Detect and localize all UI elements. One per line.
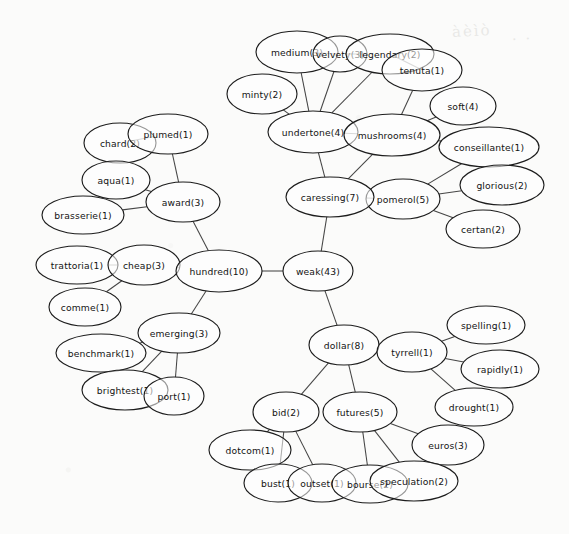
- graph-edge: [283, 110, 289, 114]
- graph-edge: [318, 153, 324, 177]
- graph-node-weak[interactable]: weak(43): [283, 251, 353, 291]
- graph-node-spelling[interactable]: spelling(1): [447, 306, 525, 344]
- graph-edge: [172, 154, 178, 182]
- graph-edge: [374, 430, 399, 462]
- graph-node-tyrrell[interactable]: tyrrell(1): [377, 332, 447, 372]
- node-label: undertone(4): [282, 127, 344, 138]
- graph-node-euros[interactable]: euros(3): [412, 425, 484, 465]
- graph-node-certan[interactable]: certan(2): [446, 210, 520, 248]
- graph-edge: [433, 210, 453, 217]
- graph-node-brasserie[interactable]: brasserie(1): [42, 196, 124, 234]
- node-label: minty(2): [242, 89, 283, 100]
- graph-node-aqua[interactable]: aqua(1): [82, 161, 150, 199]
- graph-node-plumed[interactable]: plumed(1): [128, 114, 208, 154]
- graph-edge: [402, 90, 413, 114]
- node-label: brasserie(1): [54, 210, 111, 221]
- graph-node-caressing[interactable]: caressing(7): [286, 177, 374, 217]
- node-label: euros(3): [428, 440, 468, 451]
- node-label: emerging(3): [150, 328, 209, 339]
- node-label: cheap(3): [123, 260, 165, 271]
- graph-edge: [363, 432, 368, 465]
- graph-edge: [431, 369, 455, 391]
- node-label: mushrooms(4): [358, 130, 427, 141]
- node-label: futures(5): [336, 407, 383, 418]
- graph-node-award[interactable]: award(3): [146, 182, 220, 222]
- graph-node-benchmark[interactable]: benchmark(1): [56, 334, 146, 372]
- node-label: award(3): [162, 197, 204, 208]
- graph-node-futures[interactable]: futures(5): [323, 392, 397, 432]
- node-label: rapidly(1): [477, 364, 523, 375]
- node-label: plumed(1): [143, 129, 192, 140]
- graph-node-soft[interactable]: soft(4): [430, 87, 496, 125]
- graph-node-cheap[interactable]: cheap(3): [108, 245, 180, 285]
- graph-edge: [325, 291, 337, 326]
- graph-edge: [349, 365, 356, 392]
- graph-node-tenuta[interactable]: tenuta(1): [382, 49, 462, 91]
- node-label: spelling(1): [461, 320, 511, 331]
- graph-node-pomerol[interactable]: pomerol(5): [366, 179, 440, 219]
- graph-node-dollar[interactable]: dollar(8): [309, 325, 379, 365]
- node-label: bid(2): [272, 407, 300, 418]
- graph-edge: [427, 117, 436, 121]
- node-label: weak(43): [296, 266, 340, 277]
- graph-edge: [439, 191, 462, 194]
- graph-edge: [122, 207, 147, 210]
- node-label: soft(4): [447, 101, 478, 112]
- graph-edge: [321, 217, 327, 251]
- graph-node-port[interactable]: port(1): [144, 377, 204, 415]
- node-layer: medium(3)velvety(3)legendary(2)tenuta(1)…: [36, 31, 544, 503]
- graph-edge: [301, 363, 328, 394]
- node-label: certan(2): [461, 224, 505, 235]
- node-label: dollar(8): [324, 340, 364, 351]
- graph-edge: [348, 154, 373, 179]
- graph-node-hundred[interactable]: hundred(10): [176, 250, 262, 292]
- graph-svg: medium(3)velvety(3)legendary(2)tenuta(1)…: [0, 0, 569, 534]
- graph-edge: [445, 358, 464, 362]
- graph-edge: [106, 281, 121, 292]
- node-label: pomerol(5): [377, 194, 429, 205]
- graph-edge: [176, 353, 178, 377]
- node-label: aqua(1): [98, 175, 135, 186]
- node-label: glorious(2): [476, 180, 527, 191]
- node-label: benchmark(1): [68, 348, 135, 359]
- graph-node-mushrooms[interactable]: mushrooms(4): [344, 114, 440, 156]
- graph-edge: [332, 72, 372, 113]
- graph-node-glorious[interactable]: glorious(2): [460, 165, 544, 205]
- node-label: tenuta(1): [400, 65, 445, 76]
- graph-edge: [145, 190, 151, 192]
- graph-node-comme[interactable]: comme(1): [49, 288, 121, 326]
- graph-edge: [296, 431, 313, 465]
- graph-edge: [191, 291, 206, 314]
- graph-node-rapidly[interactable]: rapidly(1): [461, 350, 539, 388]
- graph-node-minty[interactable]: minty(2): [227, 74, 297, 114]
- graph-node-bid[interactable]: bid(2): [253, 392, 319, 432]
- graph-edge: [301, 73, 309, 111]
- node-label: caressing(7): [301, 192, 360, 203]
- node-label: drought(1): [449, 402, 500, 413]
- graph-edge: [428, 164, 462, 184]
- graph-node-trattoria[interactable]: trattoria(1): [36, 246, 118, 284]
- graph-node-drought[interactable]: drought(1): [435, 388, 513, 426]
- node-label: trattoria(1): [51, 260, 104, 271]
- graph-edge: [193, 221, 208, 250]
- graph-node-emerging[interactable]: emerging(3): [138, 313, 220, 353]
- node-label: dotcom(1): [225, 445, 274, 456]
- graph-edge: [390, 423, 418, 433]
- node-label: port(1): [158, 391, 191, 402]
- node-label: conseillante(1): [454, 142, 525, 153]
- graph-edge: [442, 336, 455, 341]
- node-label: comme(1): [61, 302, 109, 313]
- node-label: hundred(10): [190, 266, 249, 277]
- node-label: speculation(2): [380, 476, 448, 487]
- graph-node-speculation[interactable]: speculation(2): [370, 461, 458, 501]
- graph-canvas: medium(3)velvety(3)legendary(2)tenuta(1)…: [0, 0, 569, 534]
- graph-node-conseillante[interactable]: conseillante(1): [439, 127, 539, 167]
- graph-edge: [320, 72, 334, 112]
- node-label: tyrrell(1): [391, 347, 433, 358]
